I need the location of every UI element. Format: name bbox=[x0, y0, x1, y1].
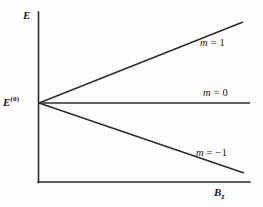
origin-energy-label: E(0) bbox=[3, 96, 19, 108]
x-axis-label-base: B bbox=[214, 186, 222, 198]
origin-energy-base: E bbox=[3, 96, 11, 108]
plot-canvas bbox=[0, 0, 263, 207]
series-label-m-minus1-value: −1 bbox=[216, 147, 228, 158]
series-label-m-plus1-var: m bbox=[200, 37, 208, 48]
series-label-m-plus1-value: 1 bbox=[220, 37, 225, 48]
series-label-m-zero-eq: = bbox=[211, 87, 223, 98]
series-label-m-minus1: m = −1 bbox=[196, 148, 227, 159]
series-label-m-plus1: m = 1 bbox=[200, 38, 225, 49]
series-label-m-zero-value: 0 bbox=[223, 87, 228, 98]
series-label-m-zero-var: m bbox=[203, 87, 211, 98]
zeeman-splitting-figure: E E(0) Bz m = 1 m = 0 m = −1 bbox=[0, 0, 263, 207]
series-label-m-minus1-eq: = bbox=[204, 147, 216, 158]
level-line-m-minus1 bbox=[39, 103, 244, 173]
y-axis-label: E bbox=[23, 10, 31, 21]
series-label-m-plus1-eq: = bbox=[208, 37, 220, 48]
x-axis-label-subscript: z bbox=[222, 192, 225, 201]
x-axis-label: Bz bbox=[214, 187, 225, 201]
series-label-m-minus1-var: m bbox=[196, 147, 204, 158]
series-label-m-zero: m = 0 bbox=[203, 88, 228, 99]
origin-energy-superscript: (0) bbox=[11, 95, 20, 103]
